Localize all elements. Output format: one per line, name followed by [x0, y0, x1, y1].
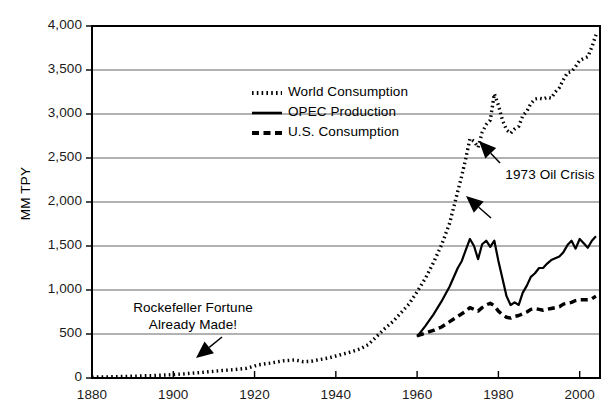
- ytick-label-4: 2,000: [24, 193, 82, 208]
- oil-crisis-arrow-opec-shaft: [479, 207, 491, 218]
- xtick-label-2: 1920: [225, 387, 285, 402]
- ytick-label-6: 3,000: [24, 105, 82, 120]
- xtick-label-6: 2000: [550, 387, 610, 402]
- ytick-label-0: 0: [24, 369, 82, 384]
- rockefeller-annotation: Rockefeller FortuneAlready Made!: [118, 299, 268, 333]
- ytick-label-5: 2,500: [24, 149, 82, 164]
- y-axis-label: MM TPY: [18, 149, 33, 239]
- legend-label-1: OPEC Production: [288, 104, 396, 119]
- xtick-label-3: 1940: [306, 387, 366, 402]
- ytick-label-3: 1,500: [24, 237, 82, 252]
- rockefeller-arrow-head: [196, 341, 214, 358]
- rockefeller-annotation-line-1: Already Made!: [118, 316, 268, 333]
- ytick-label-1: 500: [24, 325, 82, 340]
- oil-crisis-annotation: 1973 Oil Crisis: [489, 166, 611, 183]
- series-line-1: [417, 236, 596, 336]
- xtick-label-5: 1980: [468, 387, 528, 402]
- oil-crisis-arrow-opec-head: [466, 196, 484, 213]
- legend-label-2: U.S. Consumption: [288, 124, 399, 139]
- ytick-label-2: 1,000: [24, 281, 82, 296]
- ytick-label-7: 3,500: [24, 61, 82, 76]
- legend-label-0: World Consumption: [288, 84, 408, 99]
- rockefeller-annotation-line-0: Rockefeller Fortune: [118, 299, 268, 316]
- xtick-label-0: 1880: [62, 387, 122, 402]
- chart-figure: World ConsumptionOPEC ProductionU.S. Con…: [0, 0, 615, 418]
- series-line-2: [417, 296, 596, 336]
- chart-canvas: [0, 0, 615, 418]
- xtick-label-4: 1960: [387, 387, 447, 402]
- rockefeller-arrow-shaft: [209, 337, 222, 347]
- oil-crisis-annotation-line-0: 1973 Oil Crisis: [489, 166, 611, 183]
- xtick-label-1: 1900: [143, 387, 203, 402]
- ytick-label-8: 4,000: [24, 17, 82, 32]
